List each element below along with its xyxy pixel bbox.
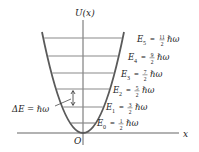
delta-e-label: ΔE = ℏω <box>11 104 49 114</box>
svg-text:=: = <box>119 102 124 112</box>
svg-text:ℏω: ℏω <box>126 118 138 128</box>
svg-text:1: 1 <box>112 108 115 114</box>
y-axis-label: U(x) <box>75 8 95 18</box>
svg-text:ℏω: ℏω <box>157 52 169 62</box>
energy-level-label: E2=52ℏω <box>112 85 154 98</box>
svg-text:2: 2 <box>161 41 164 47</box>
svg-text:=: = <box>150 34 155 44</box>
svg-text:=: = <box>141 52 146 62</box>
svg-text:3: 3 <box>129 102 132 108</box>
svg-text:2: 2 <box>144 76 147 82</box>
svg-text:=: = <box>126 85 131 95</box>
svg-text:2: 2 <box>136 92 139 98</box>
energy-level-label: E0=12ℏω <box>96 118 138 131</box>
svg-text:=: = <box>134 69 139 79</box>
svg-text:5: 5 <box>136 85 139 91</box>
harmonic-oscillator-diagram: U(x) x O ΔE = ℏω E0=12ℏωE1=32ℏωE2=52ℏωE3… <box>0 0 199 152</box>
svg-text:1: 1 <box>120 118 123 124</box>
svg-text:ℏω: ℏω <box>167 34 179 44</box>
svg-text:ℏω: ℏω <box>135 102 147 112</box>
svg-text:2: 2 <box>120 125 123 131</box>
svg-text:2: 2 <box>129 109 132 115</box>
delta-e-arrow <box>71 91 75 106</box>
origin-label: O <box>74 136 82 146</box>
svg-text:9: 9 <box>151 52 154 58</box>
energy-level-label: E4=92ℏω <box>127 52 169 65</box>
svg-text:4: 4 <box>134 58 137 64</box>
energy-level-label: E1=32ℏω <box>105 102 147 115</box>
svg-text:5: 5 <box>143 40 146 46</box>
svg-text:=: = <box>110 118 115 128</box>
energy-level-labels: E0=12ℏωE1=32ℏωE2=52ℏωE3=72ℏωE4=92ℏωE5=11… <box>96 34 179 131</box>
svg-text:7: 7 <box>144 69 147 75</box>
svg-text:11: 11 <box>159 34 165 40</box>
x-axis-label: x <box>183 129 188 139</box>
svg-text:2: 2 <box>151 59 154 65</box>
svg-text:3: 3 <box>127 75 130 81</box>
svg-text:ℏω: ℏω <box>142 85 154 95</box>
delta-e-leader <box>55 99 71 106</box>
svg-text:0: 0 <box>103 124 106 130</box>
energy-level-label: E5=112ℏω <box>136 34 179 47</box>
svg-text:ℏω: ℏω <box>150 69 162 79</box>
energy-level-label: E3=72ℏω <box>120 69 162 82</box>
svg-text:2: 2 <box>119 91 122 97</box>
